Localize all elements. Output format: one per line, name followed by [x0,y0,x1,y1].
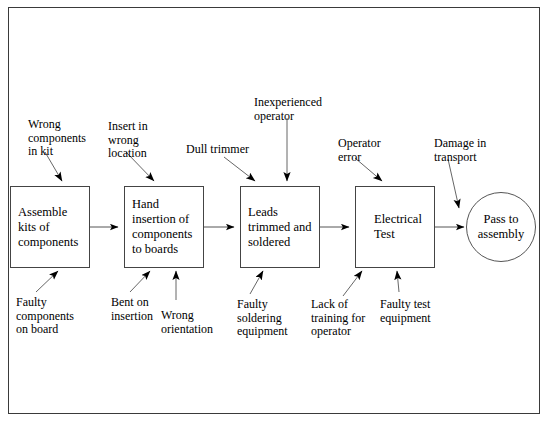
process-label-line: components [18,235,86,250]
cause-line: Dull trimmer [186,143,249,157]
cause-line: Bent on [111,296,153,310]
cause-line: insertion [111,310,153,324]
cause-line: components [28,132,86,146]
process-label-line: Leads [248,205,316,220]
process-label-line: components [132,227,200,242]
cause-label-wrong-components-in-kit: Wrong components in kit [28,118,86,159]
cause-line: location [108,147,148,161]
cause-line: Faulty test [380,298,431,312]
cause-line: Lack of [311,298,365,312]
cause-line: Wrong [28,118,86,132]
cause-line: wrong [108,134,148,148]
cause-line: Insert in [108,120,148,134]
cause-line: operator [311,325,365,339]
diagram-canvas: Assemble kits of components Hand inserti… [0,0,549,426]
cause-label-faulty-components-on-board: Faulty components on board [16,296,74,337]
cause-line: on board [16,323,74,337]
cause-label-wrong-orientation: Wrong orientation [161,309,213,336]
cause-label-insert-in-wrong-location: Insert in wrong location [108,120,148,161]
terminator-pass-to-assembly[interactable]: Pass to assembly [466,192,536,262]
process-box-assemble-kits[interactable]: Assemble kits of components [10,186,90,268]
cause-label-inexperienced-operator: Inexperienced operator [254,96,322,123]
cause-line: in kit [28,145,86,159]
cause-line: Faulty [237,298,288,312]
process-label-line: soldered [248,235,316,250]
cause-label-bent-on-insertion: Bent on insertion [111,296,153,323]
process-box-hand-insertion[interactable]: Hand insertion of components to boards [124,186,204,268]
process-box-leads-trimmed[interactable]: Leads trimmed and soldered [240,186,320,268]
cause-line: transport [434,151,486,165]
process-box-electrical-test[interactable]: Electrical Test [355,186,435,268]
process-label-line: trimmed and [248,220,316,235]
cause-label-lack-of-training-for-operator: Lack of training for operator [311,298,365,339]
cause-line: Inexperienced [254,96,322,110]
cause-label-damage-in-transport: Damage in transport [434,137,486,164]
cause-line: soldering [237,312,288,326]
process-label-line: Test [374,227,431,242]
cause-line: Damage in [434,137,486,151]
process-label-line: to boards [132,242,200,257]
cause-line: equipment [380,312,431,326]
process-label-line: kits of [18,220,86,235]
process-label-line: Assemble [18,205,86,220]
process-label-line: insertion of [132,212,200,227]
cause-line: operator [254,110,322,124]
process-label-line: Hand [132,197,200,212]
terminator-label-line: assembly [478,227,525,242]
cause-line: components [16,310,74,324]
cause-line: Operator [338,137,381,151]
cause-label-faulty-test-equipment: Faulty test equipment [380,298,431,325]
cause-line: training for [311,312,365,326]
cause-line: orientation [161,323,213,337]
cause-line: error [338,151,381,165]
cause-label-faulty-soldering-equipment: Faulty soldering equipment [237,298,288,339]
cause-line: Wrong [161,309,213,323]
cause-line: Faulty [16,296,74,310]
terminator-label-line: Pass to [483,212,518,227]
cause-label-operator-error: Operator error [338,137,381,164]
process-label-line: Electrical [374,212,431,227]
cause-label-dull-trimmer: Dull trimmer [186,143,249,157]
cause-line: equipment [237,325,288,339]
